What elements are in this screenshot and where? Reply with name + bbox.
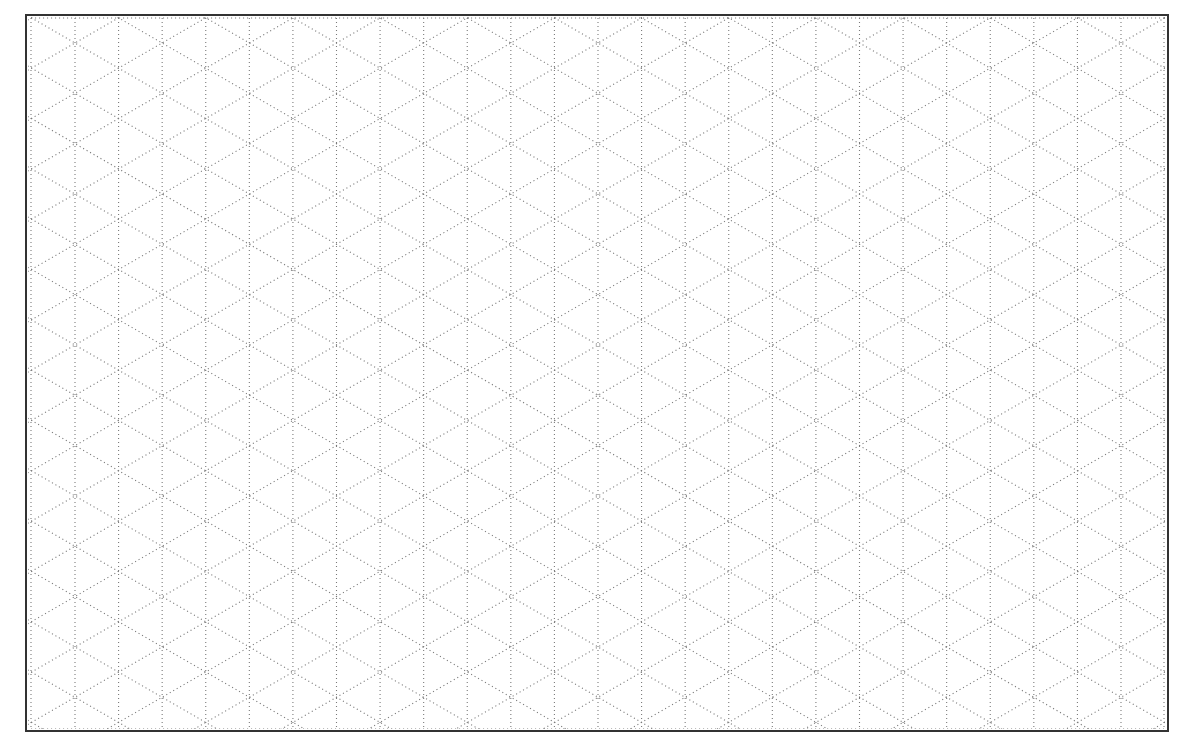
grid-diagonal-up bbox=[0, 155, 1188, 745]
grid-diagonal-down bbox=[0, 0, 1188, 434]
grid-diagonal-up bbox=[0, 0, 1188, 489]
grid-diagonal-up bbox=[0, 206, 1188, 745]
grid-diagonal-down bbox=[0, 0, 1188, 484]
grid-diagonal-down bbox=[0, 0, 1188, 132]
grid-diagonal-down bbox=[0, 0, 1188, 535]
grid-diagonal-up bbox=[0, 0, 1188, 338]
grid-diagonal-up bbox=[0, 306, 1188, 745]
grid-diagonal-down bbox=[0, 0, 1188, 233]
grid-diagonal-down bbox=[0, 50, 1188, 736]
grid-diagonal-down bbox=[0, 302, 1188, 745]
grid-diagonal-up bbox=[0, 558, 1188, 745]
grid-diagonal-down bbox=[0, 0, 1188, 384]
grid-diagonal-up bbox=[0, 508, 1188, 745]
grid-diagonal-down bbox=[0, 503, 1188, 745]
grid-diagonal-up bbox=[0, 0, 1188, 137]
grid-diagonal-down bbox=[0, 0, 1188, 635]
grid-diagonal-down bbox=[0, 553, 1188, 745]
grid-diagonal-up bbox=[0, 0, 1188, 640]
isometric-grid-canvas bbox=[0, 0, 1188, 745]
grid-diagonal-down bbox=[0, 0, 1188, 333]
grid-diagonal-down bbox=[0, 0, 1188, 283]
grid-diagonal-up bbox=[0, 457, 1188, 745]
grid-diagonal-up bbox=[0, 0, 1188, 86]
grid-diagonal-up bbox=[0, 105, 1188, 745]
grid-diagonal-down bbox=[0, 201, 1188, 745]
grid-diagonal-down bbox=[0, 352, 1188, 745]
grid-diagonal-down bbox=[0, 0, 1188, 585]
grid-lines bbox=[0, 0, 1188, 745]
grid-diagonal-down bbox=[0, 0, 1188, 686]
grid-diagonal-up bbox=[0, 709, 1188, 745]
page-frame bbox=[26, 15, 1168, 731]
grid-diagonal-up bbox=[0, 0, 1188, 439]
grid-diagonal-up bbox=[0, 0, 1188, 388]
grid-diagonal-up bbox=[0, 0, 1188, 36]
grid-diagonal-up bbox=[0, 256, 1188, 745]
grid-diagonal-down bbox=[0, 0, 1188, 82]
grid-diagonal-up bbox=[0, 0, 1188, 237]
grid-diagonal-down bbox=[0, 0, 1188, 182]
grid-diagonal-down bbox=[0, 704, 1188, 745]
grid-diagonal-up bbox=[0, 357, 1188, 745]
grid-diagonal-down bbox=[0, 604, 1188, 745]
grid-diagonal-up bbox=[0, 659, 1188, 745]
grid-diagonal-up bbox=[0, 0, 1188, 539]
grid-diagonal-up bbox=[0, 407, 1188, 745]
grid-diagonal-up bbox=[0, 0, 1188, 187]
grid-diagonal-down bbox=[0, 251, 1188, 745]
grid-diagonal-down bbox=[0, 100, 1188, 745]
grid-diagonal-up bbox=[0, 0, 1188, 288]
grid-diagonal-up bbox=[0, 4, 1188, 690]
grid-diagonal-down bbox=[0, 453, 1188, 745]
grid-diagonal-down bbox=[0, 151, 1188, 745]
grid-diagonal-up bbox=[0, 55, 1188, 741]
grid-diagonal-up bbox=[0, 0, 1188, 590]
grid-diagonal-down bbox=[0, 402, 1188, 745]
grid-diagonal-up bbox=[0, 608, 1188, 745]
